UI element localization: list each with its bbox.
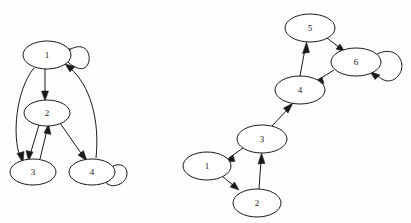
node-R4[interactable]: 4 [275,76,325,104]
node-label: 3 [260,134,265,144]
node-L1[interactable]: 1 [23,41,71,69]
node-label: 1 [205,161,210,171]
node-label: 3 [31,167,36,177]
node-L3[interactable]: 3 [10,159,56,185]
edge-path [259,160,261,189]
node-label: 2 [255,198,260,208]
edge-L2-L4 [60,123,87,161]
edge-path [272,109,288,126]
edge-R4-R5 [300,42,310,76]
edge-R3-R4 [272,103,293,126]
edge-path [70,68,97,158]
node-R5[interactable]: 5 [285,14,335,42]
arrow-head [303,42,310,54]
node-label: 6 [354,57,359,67]
graph-diagram: 1 2 3 4 [0,0,411,223]
node-label: 5 [308,23,313,33]
node-label: 4 [90,167,95,177]
node-label: 4 [298,85,303,95]
node-R6[interactable]: 6 [331,48,381,76]
right-directed-graph: 1 2 3 4 5 6 [183,14,402,217]
arrow-head [284,103,294,113]
left-directed-graph: 1 2 3 4 [10,41,127,186]
arrow-head [258,153,265,164]
node-label: 1 [45,50,50,60]
edge-R1-R2 [222,176,239,190]
node-R2[interactable]: 2 [233,189,281,217]
arrow-head [42,91,49,101]
edge-L1-L2 [42,69,49,101]
node-L4[interactable]: 4 [69,159,115,185]
node-R1[interactable]: 1 [183,152,231,180]
edge-L3-L2 [40,124,51,159]
node-R3[interactable]: 3 [237,125,287,153]
node-label: 2 [45,108,50,118]
node-L2[interactable]: 2 [24,100,70,126]
edge-path [40,130,47,159]
edge-R2-R3 [258,153,265,189]
edge-path [30,125,39,155]
figure-canvas: 1 2 3 4 [0,0,411,223]
edge-L2-L3 [26,125,39,161]
edge-path [60,123,83,156]
